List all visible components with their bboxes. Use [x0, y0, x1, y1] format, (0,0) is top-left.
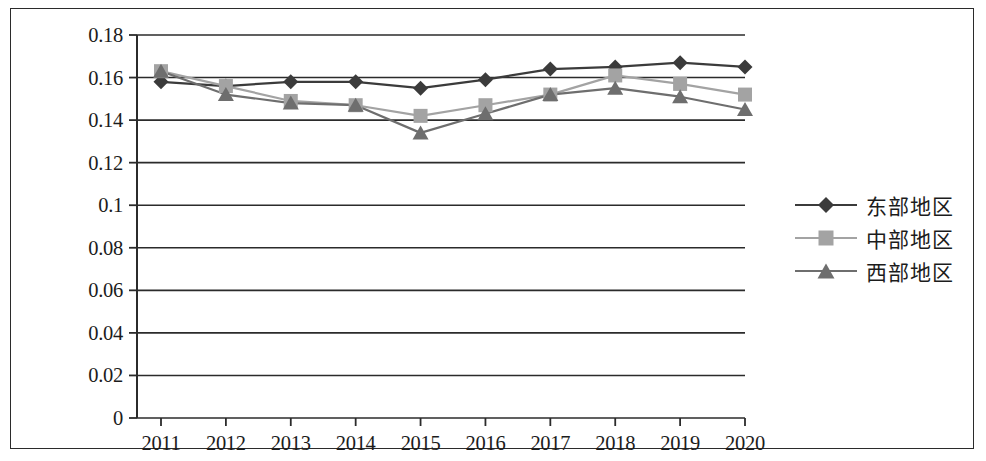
chart-legend: 东部地区 中部地区 西部地区: [795, 188, 954, 287]
y-axis-tick-label: 0.14: [45, 110, 123, 131]
x-axis-tick-label: 2016: [450, 433, 520, 454]
x-axis-tick-label: 2019: [645, 433, 715, 454]
y-tick-marks-group: [129, 35, 137, 418]
data-point-marker: [413, 81, 428, 96]
data-point-marker: [283, 74, 298, 89]
data-point-marker: [738, 59, 753, 74]
x-axis-tick-label: 2013: [256, 433, 326, 454]
data-point-marker: [543, 62, 558, 77]
legend-item-central[interactable]: 中部地区: [795, 221, 954, 254]
y-axis-tick-label: 0.04: [45, 323, 123, 344]
legend-label-east: 东部地区: [866, 190, 954, 220]
y-axis-tick-label: 0: [45, 408, 123, 429]
y-axis-tick-label: 0.06: [45, 280, 123, 301]
x-axis-tick-label: 2014: [321, 433, 391, 454]
data-point-marker: [673, 77, 687, 91]
data-point-marker: [414, 109, 428, 123]
x-axis-tick-label: 2018: [580, 433, 650, 454]
y-axis-tick-label: 0.16: [45, 68, 123, 89]
x-axis-tick-label: 2015: [386, 433, 456, 454]
y-axis-tick-label: 0.12: [45, 153, 123, 174]
x-tick-marks-group: [161, 418, 745, 426]
data-point-marker: [348, 74, 363, 89]
x-axis-tick-label: 2020: [710, 433, 780, 454]
legend-item-west[interactable]: 西部地区: [795, 254, 954, 287]
x-axis-tick-label: 2012: [191, 433, 261, 454]
legend-label-central: 中部地区: [866, 223, 954, 253]
x-axis-tick-label: 2017: [515, 433, 585, 454]
legend-marker-diamond-icon: [795, 195, 857, 215]
legend-item-east[interactable]: 东部地区: [795, 188, 954, 221]
y-axis-tick-label: 0.08: [45, 238, 123, 259]
data-point-marker: [673, 55, 688, 70]
series-lines-group: [161, 63, 745, 133]
y-axis-tick-label: 0.1: [45, 195, 123, 216]
data-point-marker: [608, 68, 622, 82]
y-axis-tick-label: 0.18: [45, 25, 123, 46]
data-point-marker: [413, 125, 429, 139]
data-point-marker: [478, 72, 493, 87]
legend-marker-square-icon: [795, 228, 857, 248]
legend-label-west: 西部地区: [866, 256, 954, 286]
data-point-marker: [738, 88, 752, 102]
series-line-0: [161, 63, 745, 89]
x-axis-tick-label: 2011: [126, 433, 196, 454]
legend-marker-triangle-icon: [795, 261, 857, 281]
y-axis-tick-label: 0.02: [45, 365, 123, 386]
